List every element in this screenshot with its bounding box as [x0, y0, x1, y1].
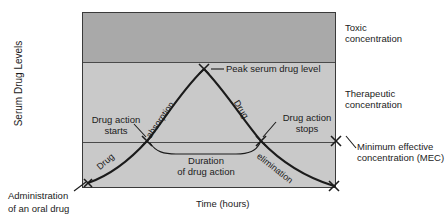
drug-action-stops-label-line1: Drug action: [278, 112, 336, 124]
administration-label-line2: of an oral drug: [8, 203, 69, 215]
drug-action-stops-label-line2: stops: [278, 123, 336, 135]
mec-right-edge-marker: [331, 136, 341, 146]
duration-label-line2: of drug action: [160, 166, 252, 178]
drug-action-starts-label-line2: starts: [86, 125, 146, 137]
drug-action-stops-marker: [256, 136, 266, 146]
duration-of-drug-action-brace: [150, 143, 260, 154]
drug-action-stops-leader-line: [263, 122, 276, 137]
peak-serum-drug-level-marker: [199, 64, 209, 74]
mec-label-line2: concentration (MEC): [357, 152, 444, 164]
administration-label-line1: Administration: [8, 190, 68, 202]
drug-action-starts-label-line1: Drug action: [86, 114, 146, 126]
curve-end-marker: [329, 181, 339, 191]
peak-serum-drug-level-label: Peak serum drug level: [226, 63, 321, 75]
mec-leader-line: [346, 136, 356, 148]
mec-label-line1: Minimum effective: [357, 141, 433, 153]
pharmacokinetics-figure: Serum Drug Levels Time (hours): [0, 0, 448, 221]
therapeutic-concentration-label-line1: Therapeutic: [345, 88, 395, 100]
toxic-concentration-label-line1: Toxic: [345, 22, 367, 34]
duration-label-line1: Duration: [166, 155, 246, 167]
toxic-concentration-label-line2: concentration: [345, 33, 402, 45]
therapeutic-concentration-label-line2: concentration: [345, 99, 402, 111]
